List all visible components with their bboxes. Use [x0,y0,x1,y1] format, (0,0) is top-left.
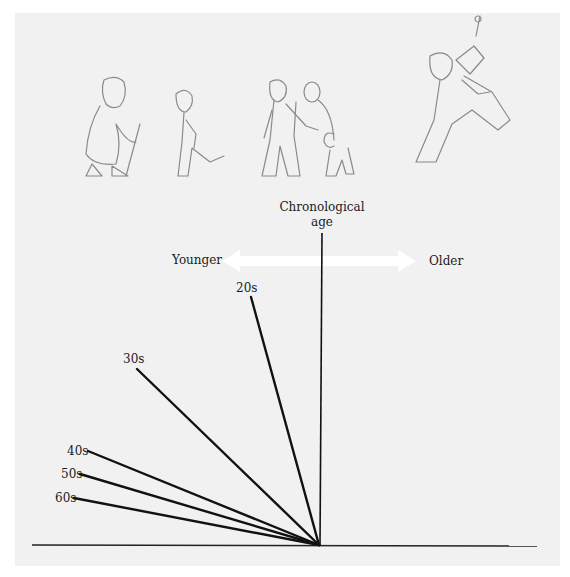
elderly-woman-figure-icon [86,77,140,176]
age-line-60s [74,498,319,545]
young-person-figure-icon [176,90,224,176]
axis-label-line1: Chronological [279,200,364,214]
label-50s: 50s [61,467,82,481]
older-label: Older [429,254,463,268]
diagram-canvas [0,0,570,577]
tall-man-figure-icon [262,80,318,176]
label-60s: 60s [55,491,76,505]
child-balloon-figure-icon [304,82,354,176]
label-40s: 40s [67,444,88,458]
axis-label-line2: age [311,215,333,229]
direction-arrow-icon [222,250,416,272]
age-line-40s [88,451,319,545]
younger-label: Younger [172,253,222,267]
label-20s: 20s [236,281,257,295]
clown-figure-icon [416,16,510,162]
label-30s: 30s [123,352,144,366]
chronological-age-axis [320,233,322,545]
baseline [32,545,537,546]
age-line-20s [251,297,319,545]
